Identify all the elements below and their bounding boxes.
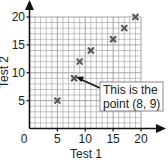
- x-tick-label: 5: [54, 132, 61, 146]
- y-tick-label: 15: [12, 38, 26, 52]
- y-tick-label: 5: [18, 94, 25, 108]
- ticks: [27, 17, 142, 132]
- x-axis-title: Test 1: [70, 147, 102, 161]
- y-tick-label: 20: [12, 10, 26, 24]
- x-tick-label: 15: [106, 132, 120, 146]
- x-axis-arrow-icon: [156, 124, 166, 133]
- callout-arrow-line: [80, 79, 100, 88]
- callout-line-1: This is the: [103, 83, 158, 97]
- y-axis-arrow-icon: [25, 0, 34, 10]
- origin-label: 0: [21, 132, 28, 146]
- x-tick-label: 20: [134, 132, 148, 146]
- y-axis-title: Test 2: [0, 56, 11, 88]
- x-tick-label: 10: [79, 132, 93, 146]
- callout: This is the point (8, 9): [76, 77, 163, 112]
- grid: [30, 17, 142, 129]
- scatter-chart: 0 5 10 15 20 5 10 15 20 Test 1 Test 2 Th…: [0, 0, 168, 166]
- callout-line-2: point (8, 9): [103, 97, 160, 111]
- y-tick-label: 10: [12, 66, 26, 80]
